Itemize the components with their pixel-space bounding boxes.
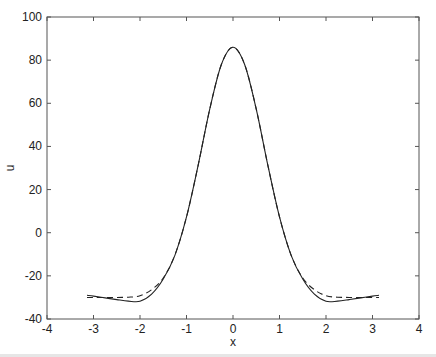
y-tick-label: 60 (29, 96, 43, 110)
y-tick-label: -20 (25, 269, 43, 283)
x-axis-label: x (230, 335, 236, 349)
y-tick-label: 0 (35, 226, 42, 240)
x-tick-label: 2 (323, 322, 330, 336)
series-dashed-line (87, 47, 379, 297)
x-tick-label: 0 (230, 322, 237, 336)
x-tick-label: -4 (42, 322, 53, 336)
y-tick-label: 20 (29, 183, 43, 197)
series-solid-line (87, 47, 379, 302)
axis-ticks: -4-3-2-101234-40-20020406080100 (22, 10, 423, 336)
x-tick-label: -1 (181, 322, 192, 336)
y-tick-label: -40 (25, 312, 43, 326)
y-tick-label: 80 (29, 53, 43, 67)
x-tick-label: 4 (416, 322, 423, 336)
x-tick-label: 1 (276, 322, 283, 336)
data-series (87, 47, 379, 302)
line-chart: -4-3-2-101234-40-20020406080100 x u (0, 0, 436, 357)
y-axis-label: u (3, 165, 17, 172)
plot-area-border (47, 17, 419, 319)
y-tick-label: 100 (22, 10, 42, 24)
plot-frame (47, 17, 419, 319)
x-tick-label: -3 (88, 322, 99, 336)
y-tick-label: 40 (29, 139, 43, 153)
x-tick-label: 3 (369, 322, 376, 336)
x-tick-label: -2 (135, 322, 146, 336)
